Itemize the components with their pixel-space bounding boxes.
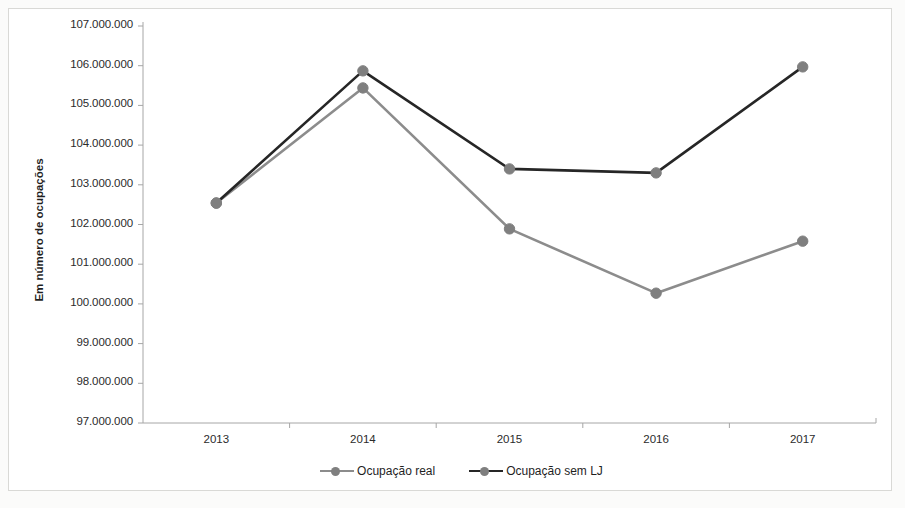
x-tick-label: 2016 bbox=[583, 433, 730, 445]
chart-ticks bbox=[138, 26, 729, 428]
y-tick-label: 104.000.000 bbox=[19, 137, 133, 149]
y-tick-label: 100.000.000 bbox=[19, 296, 133, 308]
y-tick-label: 102.000.000 bbox=[19, 217, 133, 229]
legend-marker-icon bbox=[469, 465, 503, 477]
x-tick-label: 2013 bbox=[143, 433, 290, 445]
y-tick-label: 98.000.000 bbox=[19, 375, 133, 387]
y-tick-label: 106.000.000 bbox=[19, 58, 133, 70]
y-tick-label: 105.000.000 bbox=[19, 97, 133, 109]
line-chart-plot bbox=[9, 9, 893, 492]
x-tick-label: 2014 bbox=[290, 433, 437, 445]
legend-marker-icon bbox=[320, 465, 354, 477]
legend-item[interactable]: Ocupação sem LJ bbox=[469, 464, 603, 478]
x-tick-label: 2017 bbox=[729, 433, 876, 445]
chart-frame: Em número de ocupações 107.000.000106.00… bbox=[8, 8, 892, 491]
y-tick-label: 101.000.000 bbox=[19, 256, 133, 268]
y-tick-label: 107.000.000 bbox=[19, 18, 133, 30]
legend-label: Ocupação real bbox=[357, 464, 435, 478]
chart-legend: Ocupação realOcupação sem LJ bbox=[9, 464, 905, 478]
chart-axes bbox=[143, 22, 876, 423]
legend-label: Ocupação sem LJ bbox=[506, 464, 603, 478]
y-tick-label: 103.000.000 bbox=[19, 177, 133, 189]
y-tick-label: 97.000.000 bbox=[19, 415, 133, 427]
chart-series bbox=[211, 62, 808, 299]
x-tick-label: 2015 bbox=[436, 433, 583, 445]
y-tick-label: 99.000.000 bbox=[19, 336, 133, 348]
legend-item[interactable]: Ocupação real bbox=[320, 464, 435, 478]
